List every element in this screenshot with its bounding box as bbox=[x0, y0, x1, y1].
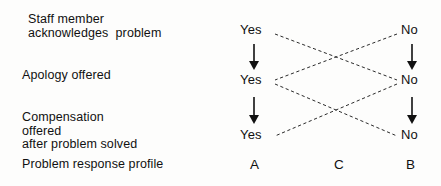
option-row3-left-yes-text: Yes bbox=[240, 127, 262, 142]
stage-label-acknowledge-line1: Staff member bbox=[28, 12, 104, 26]
option-row2-left-yes: Yes bbox=[240, 73, 262, 87]
profile-letter-c: C bbox=[334, 158, 344, 172]
flow-arrow-right-row2-row3-head bbox=[407, 115, 417, 124]
stage-label-compensation-line1: Compensation bbox=[22, 110, 104, 124]
option-row3-right-no-text: No bbox=[401, 127, 418, 142]
option-row1-left-yes-text: Yes bbox=[240, 22, 262, 37]
option-row2-right-no-text: No bbox=[401, 72, 418, 87]
dashed-link-row2-yes-to-row3-no bbox=[275, 84, 397, 136]
dashed-link-row1-no-to-row2-yes bbox=[275, 34, 397, 80]
dashed-link-row1-yes-to-row2-no bbox=[275, 34, 397, 80]
option-row1-left-yes: Yes bbox=[240, 23, 262, 37]
footer-label-text: Problem response profile bbox=[22, 157, 163, 171]
stage-label-compensation-line2: offered bbox=[22, 124, 61, 138]
profile-letter-c-text: C bbox=[334, 157, 344, 172]
profile-letter-a-text: A bbox=[250, 157, 259, 172]
profile-letter-b: B bbox=[406, 158, 415, 172]
profile-letter-b-text: B bbox=[406, 157, 415, 172]
dashed-link-row2-no-to-row3-yes bbox=[275, 84, 397, 136]
option-row3-right-no: No bbox=[401, 128, 418, 142]
option-row1-right-no-text: No bbox=[401, 22, 418, 37]
option-row2-left-yes-text: Yes bbox=[240, 72, 262, 87]
option-row2-right-no: No bbox=[401, 73, 418, 87]
stage-label-acknowledge: Staff memberacknowledges problem bbox=[28, 13, 161, 40]
footer-label-problem-response-profile: Problem response profile bbox=[22, 158, 163, 172]
stage-label-compensation: Compensationofferedafter problem solved bbox=[22, 111, 137, 152]
stage-label-acknowledge-line2: acknowledges problem bbox=[28, 26, 161, 40]
problem-response-profile-diagram: Staff memberacknowledges problem Apology… bbox=[0, 0, 441, 186]
flow-arrow-left-row1-row2-head bbox=[249, 61, 259, 70]
option-row3-left-yes: Yes bbox=[240, 128, 262, 142]
stage-label-apology: Apology offered bbox=[22, 69, 111, 83]
stage-label-apology-line1: Apology offered bbox=[22, 68, 111, 82]
flow-arrow-left-row2-row3-head bbox=[249, 115, 259, 124]
profile-letter-a: A bbox=[250, 158, 259, 172]
flow-arrow-right-row1-row2-head bbox=[407, 61, 417, 70]
option-row1-right-no: No bbox=[401, 23, 418, 37]
stage-label-compensation-line3: after problem solved bbox=[22, 137, 137, 151]
